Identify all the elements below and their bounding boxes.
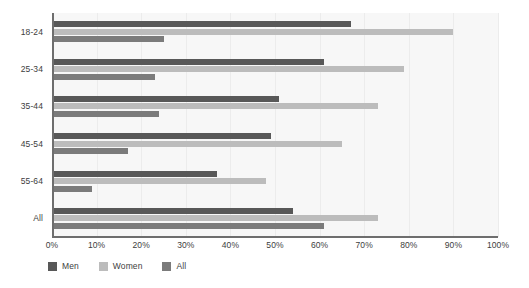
y-axis-line bbox=[52, 13, 54, 237]
y-axis-label-all: All bbox=[33, 213, 43, 223]
y-axis-label-18-24: 18-24 bbox=[21, 27, 43, 37]
x-axis-tick-label: 100% bbox=[487, 240, 509, 250]
legend: MenWomenAll bbox=[48, 261, 186, 271]
bar-women-all bbox=[52, 215, 378, 221]
x-axis-tick-label: 40% bbox=[222, 240, 239, 250]
x-axis-tick-label: 50% bbox=[266, 240, 283, 250]
y-axis-label-55-64: 55-64 bbox=[21, 176, 43, 186]
legend-label: Women bbox=[113, 261, 143, 271]
bar-men-18-24 bbox=[52, 21, 351, 27]
bar-group bbox=[52, 21, 498, 42]
bar-men-35-44 bbox=[52, 96, 279, 102]
legend-swatch-icon bbox=[48, 262, 57, 271]
bar-group bbox=[52, 171, 498, 192]
bar-all-35-44 bbox=[52, 111, 159, 117]
bar-women-45-54 bbox=[52, 141, 342, 147]
x-axis-tick-label: 30% bbox=[177, 240, 194, 250]
x-axis-tick-label: 80% bbox=[400, 240, 417, 250]
gridline bbox=[498, 13, 499, 237]
bar-chart: 18-2425-3435-4445-5455-64All 0%10%20%30%… bbox=[0, 0, 529, 288]
legend-item-women[interactable]: Women bbox=[99, 261, 143, 271]
bar-all-45-54 bbox=[52, 148, 128, 154]
bar-men-55-64 bbox=[52, 171, 217, 177]
bar-men-all bbox=[52, 208, 293, 214]
bar-all-25-34 bbox=[52, 74, 155, 80]
legend-label: Men bbox=[62, 261, 79, 271]
plot-area bbox=[52, 13, 498, 237]
bar-women-35-44 bbox=[52, 103, 378, 109]
x-axis-tick-label: 0% bbox=[46, 240, 59, 250]
bar-group bbox=[52, 96, 498, 117]
x-axis-tick-labels: 0%10%20%30%40%50%60%70%80%90%100% bbox=[0, 240, 529, 254]
x-axis-line bbox=[52, 236, 498, 238]
x-axis-tick-label: 60% bbox=[311, 240, 328, 250]
x-axis-tick-label: 10% bbox=[88, 240, 105, 250]
x-axis-tick-label: 20% bbox=[133, 240, 150, 250]
bar-men-45-54 bbox=[52, 133, 271, 139]
legend-item-men[interactable]: Men bbox=[48, 261, 79, 271]
legend-swatch-icon bbox=[99, 262, 108, 271]
bar-women-18-24 bbox=[52, 29, 453, 35]
y-axis-label-45-54: 45-54 bbox=[21, 139, 43, 149]
bar-group bbox=[52, 208, 498, 229]
bar-women-55-64 bbox=[52, 178, 266, 184]
bar-groups bbox=[52, 13, 498, 237]
bar-women-25-34 bbox=[52, 66, 404, 72]
legend-swatch-icon bbox=[162, 262, 171, 271]
legend-label: All bbox=[176, 261, 186, 271]
bar-group bbox=[52, 59, 498, 80]
legend-item-all[interactable]: All bbox=[162, 261, 186, 271]
y-axis-category-labels: 18-2425-3435-4445-5455-64All bbox=[0, 13, 48, 237]
bar-men-25-34 bbox=[52, 59, 324, 65]
bar-all-18-24 bbox=[52, 36, 164, 42]
bar-group bbox=[52, 133, 498, 154]
bar-all-all bbox=[52, 223, 324, 229]
x-axis-tick-label: 70% bbox=[356, 240, 373, 250]
x-axis-tick-label: 90% bbox=[445, 240, 462, 250]
bar-all-55-64 bbox=[52, 186, 92, 192]
y-axis-label-25-34: 25-34 bbox=[21, 64, 43, 74]
y-axis-label-35-44: 35-44 bbox=[21, 101, 43, 111]
